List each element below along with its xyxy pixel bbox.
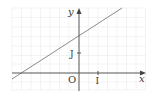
coordinate-plane: y x O I J: [0, 0, 152, 99]
y-axis-label: y: [67, 6, 74, 17]
origin-label: O: [68, 74, 76, 85]
x-unit-label: I: [96, 76, 100, 86]
y-axis-arrow-icon: [77, 8, 82, 14]
plotted-line: [12, 8, 122, 79]
y-axis: [77, 8, 82, 91]
y-unit-label: J: [69, 49, 74, 59]
x-axis-label: x: [139, 73, 145, 84]
